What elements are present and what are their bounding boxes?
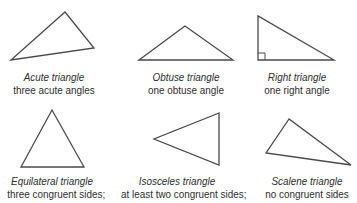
acute-triangle-shape [11,12,94,60]
triangle-name: Isosceles triangle [121,175,233,188]
obtuse-triangle-label: Obtuse triangle one obtuse angle [143,71,229,97]
obtuse-triangle-shape [139,26,233,60]
right-triangle-label: Right triangle one right angle [258,71,335,97]
triangle-description: at least two congruent sides; [121,188,233,201]
triangle-description: no congruent sides [264,188,350,201]
equilateral-triangle-shape [21,110,84,167]
acute-triangle-label: Acute triangle three acute angles [11,71,97,97]
triangle-diagram [0,0,357,203]
triangle-description: three acute angles [11,84,97,97]
isosceles-triangle-shape [154,113,219,165]
triangle-name: Equilateral triangle [7,175,96,188]
right-angle-marker-icon [258,53,265,60]
scalene-triangle-label: Scalene triangle no congruent sides [264,175,350,201]
right-triangle-shape [258,16,334,60]
triangle-name: Right triangle [258,71,335,84]
triangle-name: Obtuse triangle [143,71,229,84]
triangle-description: three congruent sides; [7,188,96,201]
scalene-triangle-shape [266,119,351,165]
isosceles-triangle-label: Isosceles triangle at least two congruen… [121,175,233,201]
equilateral-triangle-label: Equilateral triangle three congruent sid… [7,175,96,201]
triangle-name: Scalene triangle [264,175,350,188]
triangle-description: one obtuse angle [143,84,229,97]
triangle-name: Acute triangle [11,71,97,84]
triangle-description: one right angle [258,84,335,97]
